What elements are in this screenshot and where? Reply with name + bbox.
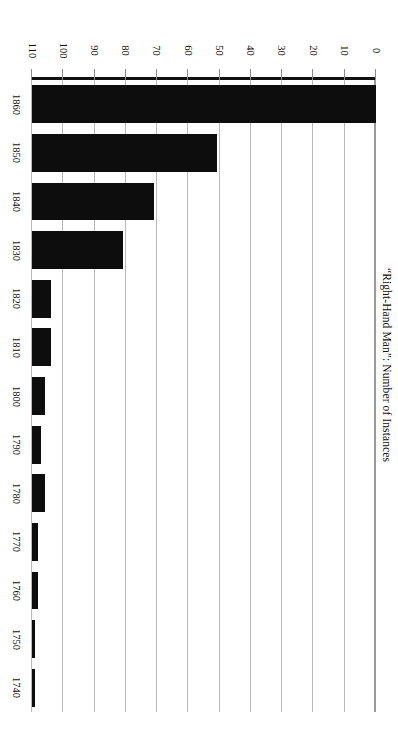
gridline <box>156 80 157 712</box>
gridline <box>62 80 63 712</box>
category-axis-label: 1860 <box>2 80 32 129</box>
bar-chart-figure: “Right-Hand Man”: Number of Instances 01… <box>0 0 398 730</box>
tick-mark <box>250 69 251 80</box>
category-axis-label: 1740 <box>2 663 32 712</box>
tick-mark <box>187 69 188 80</box>
value-axis-tick-labels: 0102030405060708090100110 <box>32 30 376 68</box>
tick-mark <box>312 69 313 80</box>
tick-mark <box>375 69 376 80</box>
value-axis-tick-label: 60 <box>173 34 203 68</box>
value-axis-tick-label: 110 <box>17 34 47 68</box>
category-axis-label: 1790 <box>2 420 32 469</box>
gridline <box>312 80 313 712</box>
category-axis-label: 1800 <box>2 372 32 421</box>
value-axis-baseline <box>374 80 376 712</box>
category-axis-label: 1820 <box>2 274 32 323</box>
gridline <box>125 80 126 712</box>
bar <box>32 620 35 658</box>
plot-area <box>32 80 376 712</box>
value-axis-tick-label: 100 <box>48 34 78 68</box>
category-axis-label: 1750 <box>2 615 32 664</box>
value-axis-tick-label: 0 <box>361 34 391 68</box>
gridline <box>94 80 95 712</box>
category-axis-label: 1780 <box>2 469 32 518</box>
tick-mark <box>125 69 126 80</box>
bar <box>32 426 41 464</box>
category-axis-label: 1830 <box>2 226 32 275</box>
value-axis-tick-label: 40 <box>236 34 266 68</box>
category-axis-label: 1850 <box>2 129 32 178</box>
tick-mark <box>62 69 63 80</box>
value-axis-tick-label: 80 <box>111 34 141 68</box>
gridline <box>250 80 251 712</box>
category-axis-labels: 1740175017601770178017901800181018201830… <box>2 80 32 712</box>
gridline <box>344 80 345 712</box>
tick-mark <box>344 69 345 80</box>
tick-mark <box>219 69 220 80</box>
bar <box>32 523 38 561</box>
tick-mark <box>94 69 95 80</box>
bar <box>32 377 45 415</box>
value-axis-tick-label: 30 <box>267 34 297 68</box>
bar <box>32 280 51 318</box>
bar <box>32 474 45 512</box>
value-axis-tick-label: 70 <box>142 34 172 68</box>
value-axis-tick-label: 90 <box>80 34 110 68</box>
tick-mark <box>31 69 32 80</box>
bar <box>32 85 376 123</box>
value-axis-tick-label: 10 <box>330 34 360 68</box>
value-axis-title: “Right-Hand Man”: Number of Instances <box>376 0 398 730</box>
gridline <box>281 80 282 712</box>
category-axis-label: 1760 <box>2 566 32 615</box>
bar <box>32 328 51 366</box>
value-axis-tick-label: 20 <box>298 34 328 68</box>
tick-mark <box>156 69 157 80</box>
bar <box>32 231 123 269</box>
value-axis-tick-label: 50 <box>205 34 235 68</box>
gridline <box>187 80 188 712</box>
bar <box>32 134 217 172</box>
bar <box>32 669 35 707</box>
bar <box>32 572 38 610</box>
category-axis-label: 1840 <box>2 177 32 226</box>
gridline <box>219 80 220 712</box>
category-axis-label: 1810 <box>2 323 32 372</box>
category-axis-label: 1770 <box>2 518 32 567</box>
tick-mark <box>281 69 282 80</box>
bar <box>32 183 154 221</box>
